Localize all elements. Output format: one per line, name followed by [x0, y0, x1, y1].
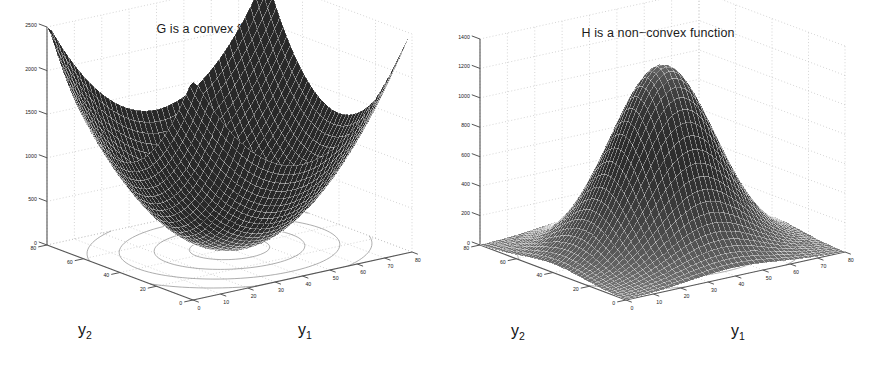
svg-text:10: 10: [223, 299, 229, 305]
figure-convex: G is a convex function 01020304050607080…: [0, 0, 438, 374]
svg-text:600: 600: [461, 152, 470, 158]
svg-text:0: 0: [197, 305, 200, 311]
svg-text:10: 10: [656, 299, 662, 305]
axis-label-y1-nonconvex: y1: [731, 322, 745, 342]
svg-text:60: 60: [500, 259, 506, 265]
svg-text:40: 40: [536, 272, 542, 278]
svg-text:20: 20: [684, 293, 690, 299]
svg-text:500: 500: [28, 196, 37, 202]
svg-text:70: 70: [388, 263, 394, 269]
svg-text:40: 40: [738, 281, 744, 287]
svg-text:60: 60: [67, 259, 73, 265]
svg-text:20: 20: [573, 286, 579, 292]
svg-text:60: 60: [793, 269, 799, 275]
svg-text:30: 30: [711, 287, 717, 293]
svg-text:20: 20: [140, 286, 146, 292]
axes-nonconvex: 0102030405060708002040608002004006008001…: [439, 0, 877, 374]
svg-text:0: 0: [612, 300, 615, 306]
svg-text:400: 400: [461, 181, 470, 187]
svg-text:0: 0: [179, 300, 182, 306]
svg-text:1400: 1400: [458, 34, 470, 40]
svg-text:30: 30: [278, 287, 284, 293]
axis-label-y1-convex: y1: [298, 321, 312, 341]
svg-text:0: 0: [630, 305, 633, 311]
figure-nonconvex: H is a non−convex function 0102030405060…: [439, 0, 877, 374]
svg-text:40: 40: [103, 272, 109, 278]
svg-text:20: 20: [251, 293, 257, 299]
svg-text:70: 70: [821, 263, 827, 269]
svg-text:1000: 1000: [25, 153, 37, 159]
svg-text:50: 50: [333, 275, 339, 281]
axis-label-y2-convex: y2: [78, 321, 92, 341]
svg-text:0: 0: [34, 240, 37, 246]
svg-text:50: 50: [766, 275, 772, 281]
svg-text:1500: 1500: [25, 109, 37, 115]
svg-text:200: 200: [461, 210, 470, 216]
axis-label-y2-nonconvex: y2: [511, 322, 525, 342]
svg-text:80: 80: [848, 257, 854, 263]
svg-text:0: 0: [467, 240, 470, 246]
axes-convex: 0102030405060708002040608005001000150020…: [0, 0, 438, 374]
svg-text:2000: 2000: [25, 66, 37, 72]
svg-text:2500: 2500: [25, 22, 37, 28]
svg-text:60: 60: [360, 269, 366, 275]
svg-text:800: 800: [461, 122, 470, 128]
svg-text:1200: 1200: [458, 63, 470, 69]
svg-text:80: 80: [415, 257, 421, 263]
svg-text:1000: 1000: [458, 93, 470, 99]
svg-text:40: 40: [305, 281, 311, 287]
